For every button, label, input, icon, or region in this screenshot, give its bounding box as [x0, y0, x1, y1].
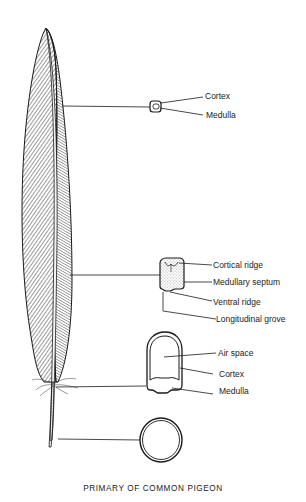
feather-diagram [0, 0, 306, 502]
label-air-space: Air space [218, 348, 253, 358]
section-calamus [58, 418, 182, 462]
label-cortical-ridge: Cortical ridge [213, 260, 263, 270]
section-middle [70, 258, 216, 319]
label-longitudinal-grove: Longitudinal grove [216, 314, 285, 324]
label-cortex-distal: Cortex [205, 91, 230, 101]
figure-caption: PRIMARY OF COMMON PIGEON [0, 484, 306, 493]
label-medulla-distal: Medulla [206, 110, 236, 120]
label-medulla-proximal: Medulla [219, 386, 249, 396]
section-proximal [56, 332, 216, 394]
section-distal [62, 97, 203, 115]
label-medullary-septum: Medullary septum [213, 277, 280, 287]
label-cortex-proximal: Cortex [219, 369, 244, 379]
feather-illustration [22, 28, 78, 447]
label-ventral-ridge: Ventral ridge [213, 297, 261, 307]
